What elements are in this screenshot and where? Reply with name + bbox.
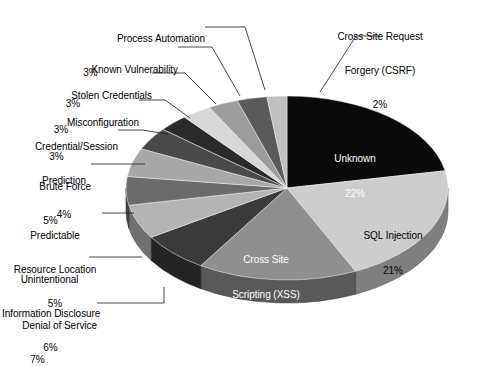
label-denial-of-service-value: 7%	[4, 354, 97, 365]
label-csrf-value: 2%	[292, 99, 468, 110]
slice-label-unknown-value: 22%	[312, 188, 398, 200]
label-csrf-line1: Cross Site Request	[292, 31, 468, 42]
slice-label-sql-injection-name: SQL Injection	[346, 230, 440, 242]
slice-label-xss-line2: Scripting (XSS)	[218, 289, 314, 301]
label-denial-of-service: Denial of Service 7%	[4, 297, 97, 367]
leader-line-denial-of-service	[97, 287, 164, 303]
label-csrf-line2: Forgery (CSRF)	[292, 65, 468, 76]
label-brute-force-line1: Brute Force	[10, 181, 91, 192]
label-denial-of-service-line1: Denial of Service	[4, 320, 97, 331]
label-credential-session-prediction-line1: Credential/Session	[10, 141, 118, 152]
label-unintentional-information-disclosure-line1: Unintentional	[2, 274, 89, 285]
slice-label-cross-site-scripting: Cross Site Scripting (XSS) 16%	[218, 231, 314, 359]
slice-label-unknown-name: Unknown	[312, 153, 398, 165]
leader-line-process-automation	[205, 27, 265, 90]
label-cross-site-request-forgery: Cross Site Request Forgery (CSRF) 2%	[292, 8, 468, 133]
slice-label-xss-line1: Cross Site	[218, 254, 314, 266]
slice-label-sql-injection: SQL Injection 21%	[346, 207, 440, 300]
slice-label-xss-value: 16%	[218, 324, 314, 336]
slice-label-sql-injection-value: 21%	[346, 265, 440, 277]
label-predictable-resource-location-line1: Predictable	[8, 230, 102, 241]
